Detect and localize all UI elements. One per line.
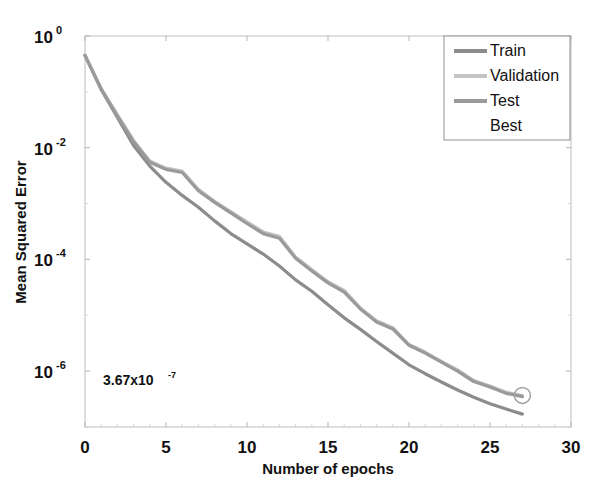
legend-label-validation: Validation (490, 67, 559, 84)
mse-training-chart: 051015202530 10010-210-410-6 3.67x10 -7 … (0, 0, 610, 498)
x-tick-label: 10 (238, 438, 257, 457)
y-tick-label-exponent: -2 (56, 136, 66, 148)
x-tick-label: 20 (400, 438, 419, 457)
x-axis-tick-labels: 051015202530 (80, 438, 580, 457)
figure-canvas: 051015202530 10010-210-410-6 3.67x10 -7 … (0, 0, 610, 498)
legend-label-test: Test (490, 92, 520, 109)
y-axis-tick-labels: 10010-210-410-6 (34, 24, 67, 382)
x-tick-label: 25 (481, 438, 500, 457)
annotation-exponent: -7 (168, 370, 176, 380)
y-tick-label-exponent: -6 (56, 359, 66, 371)
y-tick-label-exponent: 0 (56, 24, 62, 36)
y-tick-label-mantissa: 10 (34, 140, 53, 159)
x-tick-label: 15 (319, 438, 338, 457)
x-tick-label: 5 (161, 438, 170, 457)
y-tick-label-mantissa: 10 (34, 28, 53, 47)
y-tick-label-mantissa: 10 (34, 363, 53, 382)
y-axis-title: Mean Squared Error (12, 160, 29, 304)
x-tick-label: 30 (562, 438, 581, 457)
y-tick-label-exponent: -4 (56, 247, 67, 259)
x-tick-label: 0 (80, 438, 89, 457)
x-axis-title: Number of epochs (262, 460, 394, 477)
legend-label-train: Train (490, 42, 526, 59)
best-value-annotation: 3.67x10 -7 (103, 370, 176, 388)
legend-label-best: Best (490, 117, 523, 134)
legend: TrainValidationTestBest (444, 36, 570, 140)
y-tick-label-mantissa: 10 (34, 251, 53, 270)
annotation-mantissa: 3.67x10 (103, 372, 154, 388)
